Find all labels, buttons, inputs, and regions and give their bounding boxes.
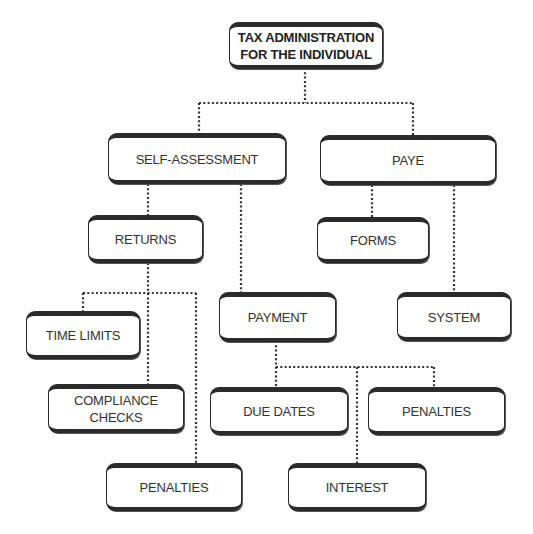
node-returns: RETURNS [88,215,203,263]
connector-lines [0,0,533,534]
node-forms: FORMS [317,217,429,263]
node-due-dates: DUE DATES [210,387,348,435]
payment-penalties-label: PENALTIES [402,403,471,420]
node-payment-penalties: PENALTIES [368,387,505,435]
self-assessment-label: SELF-ASSESSMENT [136,151,259,168]
returns-penalties-label: PENALTIES [140,479,209,496]
payment-label: PAYMENT [248,309,308,326]
node-payment: PAYMENT [219,292,336,342]
node-compliance-checks: COMPLIANCE CHECKS [48,384,184,433]
node-returns-penalties: PENALTIES [106,463,242,511]
system-label: SYSTEM [428,309,480,326]
returns-label: RETURNS [115,231,176,248]
due-dates-label: DUE DATES [243,403,315,420]
forms-label: FORMS [350,232,396,249]
node-interest: INTEREST [288,463,426,511]
interest-label: INTEREST [326,479,389,496]
node-time-limits: TIME LIMITS [26,311,140,359]
node-paye: PAYE [320,135,496,185]
root-label-line2: FOR THE INDIVIDUAL [240,46,371,63]
node-system: SYSTEM [397,292,511,341]
compliance-checks-label-line2: CHECKS [90,409,143,426]
time-limits-label: TIME LIMITS [46,327,120,344]
compliance-checks-label-line1: COMPLIANCE [74,392,158,409]
node-self-assessment: SELF-ASSESSMENT [108,133,286,184]
org-chart-diagram: TAX ADMINISTRATION FOR THE INDIVIDUAL SE… [0,0,533,534]
paye-label: PAYE [392,152,424,169]
root-label-line1: TAX ADMINISTRATION [238,29,374,46]
node-tax-administration: TAX ADMINISTRATION FOR THE INDIVIDUAL [229,22,383,69]
